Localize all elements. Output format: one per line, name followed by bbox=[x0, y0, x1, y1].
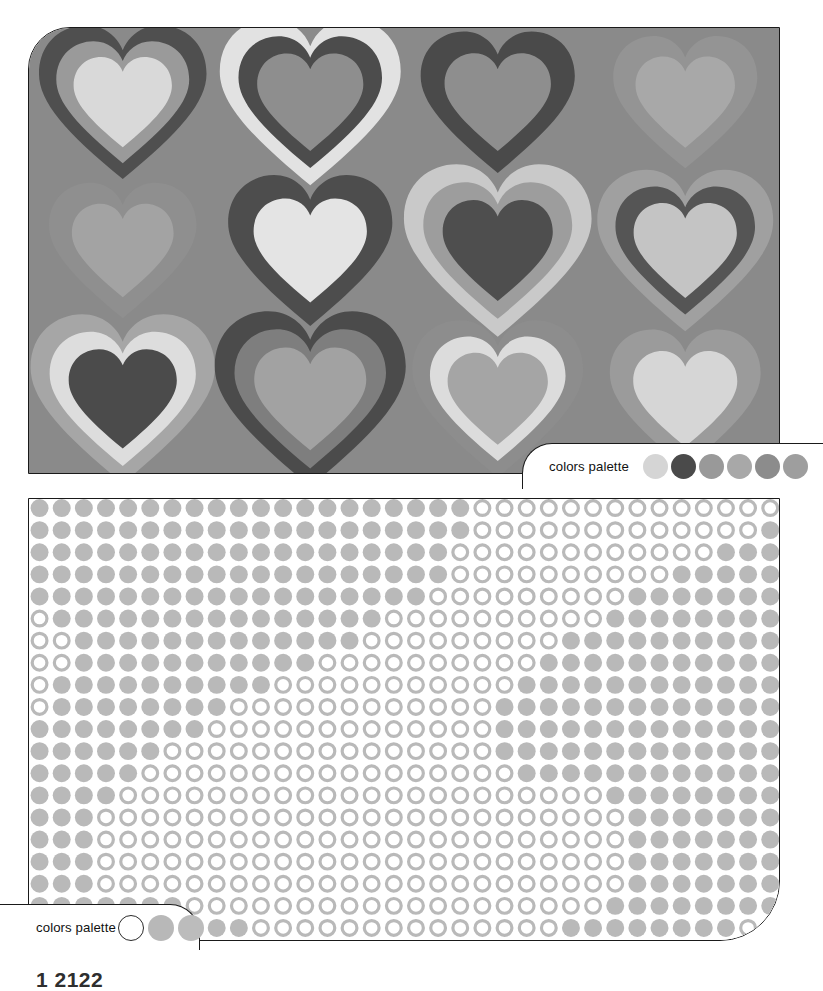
dot-filled bbox=[761, 521, 779, 539]
dot-filled bbox=[695, 875, 713, 893]
dot-filled bbox=[341, 521, 359, 539]
dot-filled bbox=[695, 897, 713, 915]
colors-palette-tab-hearts[interactable]: colors palette bbox=[522, 443, 823, 489]
dot-filled bbox=[385, 499, 403, 517]
dot-filled bbox=[186, 543, 204, 561]
dot-filled bbox=[208, 654, 226, 672]
dot-filled bbox=[407, 499, 425, 517]
dot-filled bbox=[97, 786, 115, 804]
swatch-slate-gray[interactable] bbox=[755, 454, 780, 479]
dot-filled bbox=[562, 676, 580, 694]
dot-filled bbox=[695, 610, 713, 628]
dot-filled bbox=[341, 587, 359, 605]
dot-filled bbox=[75, 831, 93, 849]
dot-filled bbox=[761, 831, 779, 849]
dot-filled bbox=[651, 742, 669, 760]
dot-filled bbox=[119, 521, 137, 539]
dot-filled bbox=[230, 587, 248, 605]
dot-filled bbox=[628, 831, 646, 849]
dot-filled bbox=[186, 676, 204, 694]
dot-filled bbox=[673, 632, 691, 650]
dot-filled bbox=[761, 720, 779, 738]
dot-filled bbox=[584, 764, 602, 782]
dot-filled bbox=[230, 632, 248, 650]
dot-filled bbox=[562, 654, 580, 672]
dot-filled bbox=[274, 654, 292, 672]
dot-filled bbox=[739, 742, 757, 760]
dot-filled bbox=[163, 521, 181, 539]
dot-filled bbox=[31, 853, 49, 871]
swatch-stone-gray[interactable] bbox=[783, 454, 808, 479]
color-swatch-row bbox=[643, 454, 808, 479]
dot-filled bbox=[717, 720, 735, 738]
dot-filled bbox=[186, 632, 204, 650]
dot-filled bbox=[739, 786, 757, 804]
dot-filled bbox=[97, 698, 115, 716]
dot-filled bbox=[75, 521, 93, 539]
dot-filled bbox=[141, 587, 159, 605]
dot-filled bbox=[53, 610, 71, 628]
dot-filled bbox=[717, 543, 735, 561]
dot-filled bbox=[628, 654, 646, 672]
dot-filled bbox=[429, 499, 447, 517]
dot-filled bbox=[252, 632, 270, 650]
dot-filled bbox=[119, 654, 137, 672]
dot-filled bbox=[496, 720, 514, 738]
dot-filled bbox=[75, 720, 93, 738]
dot-filled bbox=[274, 543, 292, 561]
dot-filled bbox=[606, 654, 624, 672]
dot-filled bbox=[31, 831, 49, 849]
colors-palette-tab-dots[interactable]: colors palette bbox=[0, 904, 200, 950]
dot-filled bbox=[606, 764, 624, 782]
hearts-pattern-panel[interactable] bbox=[28, 27, 780, 474]
dot-filled bbox=[141, 565, 159, 583]
dot-filled bbox=[31, 764, 49, 782]
dot-filled bbox=[75, 632, 93, 650]
dot-filled bbox=[186, 698, 204, 716]
swatch-warm-gray[interactable] bbox=[727, 454, 752, 479]
dots-pattern-panel[interactable] bbox=[28, 498, 780, 941]
dot-filled bbox=[31, 808, 49, 826]
swatch-light-gray-2[interactable] bbox=[178, 915, 204, 941]
dots-pattern-canvas bbox=[29, 499, 779, 940]
dot-filled bbox=[296, 610, 314, 628]
dot-filled bbox=[363, 610, 381, 628]
dot-filled bbox=[739, 654, 757, 672]
dot-filled bbox=[363, 565, 381, 583]
dot-filled bbox=[97, 543, 115, 561]
dot-filled bbox=[673, 742, 691, 760]
dot-filled bbox=[208, 521, 226, 539]
dot-filled bbox=[119, 499, 137, 517]
swatch-white[interactable] bbox=[118, 915, 144, 941]
dot-filled bbox=[695, 919, 713, 937]
swatch-light-gray[interactable] bbox=[643, 454, 668, 479]
dot-filled bbox=[651, 831, 669, 849]
dot-filled bbox=[584, 919, 602, 937]
dot-filled bbox=[761, 897, 779, 915]
dot-filled bbox=[31, 742, 49, 760]
dot-filled bbox=[739, 875, 757, 893]
dot-filled bbox=[75, 742, 93, 760]
dot-filled bbox=[75, 676, 93, 694]
dot-filled bbox=[739, 764, 757, 782]
dot-filled bbox=[186, 521, 204, 539]
dot-filled bbox=[540, 676, 558, 694]
dot-filled bbox=[97, 499, 115, 517]
dot-filled bbox=[717, 698, 735, 716]
dot-filled bbox=[606, 919, 624, 937]
dot-filled bbox=[208, 698, 226, 716]
dot-filled bbox=[739, 897, 757, 915]
dot-filled bbox=[274, 610, 292, 628]
dot-filled bbox=[208, 632, 226, 650]
swatch-dark-charcoal[interactable] bbox=[671, 454, 696, 479]
dot-filled bbox=[695, 764, 713, 782]
swatch-light-gray[interactable] bbox=[148, 915, 174, 941]
swatch-mid-gray[interactable] bbox=[699, 454, 724, 479]
dot-filled bbox=[296, 521, 314, 539]
dot-filled bbox=[518, 676, 536, 694]
dot-filled bbox=[163, 698, 181, 716]
dot-filled bbox=[385, 565, 403, 583]
dot-filled bbox=[717, 654, 735, 672]
dot-filled bbox=[119, 565, 137, 583]
dot-filled bbox=[141, 676, 159, 694]
